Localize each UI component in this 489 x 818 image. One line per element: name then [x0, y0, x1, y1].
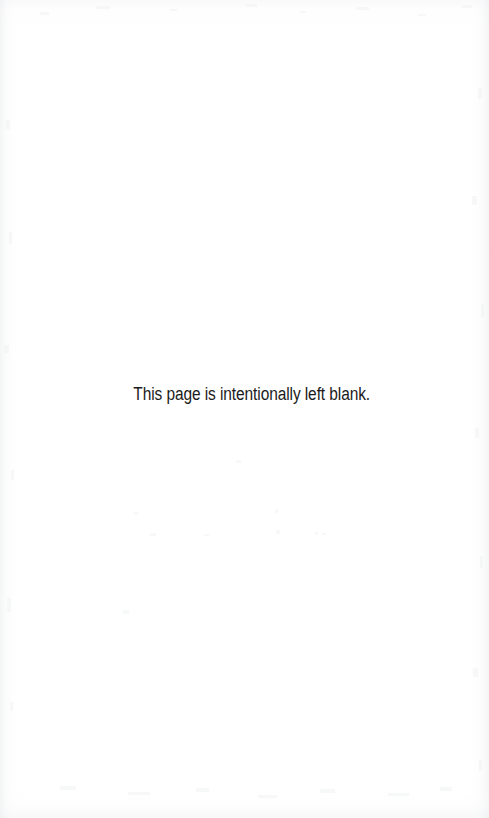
scan-artifact-left-edge	[0, 0, 22, 818]
document-page: This page is intentionally left blank.	[0, 0, 489, 818]
scan-artifact-right-edge	[463, 0, 489, 818]
scan-artifact-bottom-edge	[0, 784, 489, 818]
blank-page-notice: This page is intentionally left blank.	[0, 384, 489, 405]
scan-artifact-speckles	[0, 0, 489, 818]
scan-artifact-top-edge	[0, 0, 489, 26]
blank-page-notice-text: This page is intentionally left blank.	[133, 384, 370, 405]
